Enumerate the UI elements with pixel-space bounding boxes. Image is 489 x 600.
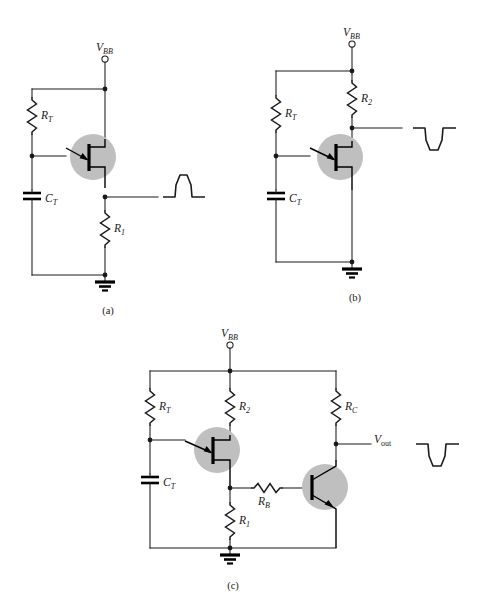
resistor-r2-b (348, 80, 357, 118)
circuit-a: VBB RT CT (23, 41, 205, 317)
supply-terminal-a[interactable] (102, 56, 108, 62)
resistor-rc-c-label: RC (344, 400, 358, 415)
ujt-halo-c (194, 427, 240, 473)
resistor-rt-b (272, 95, 281, 133)
resistor-r1-c-label: R1 (238, 514, 250, 529)
resistor-rc-c (332, 388, 341, 426)
waveform-a (163, 175, 205, 197)
resistor-rb-c (251, 484, 283, 493)
output-label-c: Vout (374, 433, 392, 448)
capacitor-ct-b-label: CT (289, 192, 302, 207)
supply-terminal-c[interactable] (227, 342, 233, 348)
resistor-r1-c (226, 502, 235, 540)
waveform-c (416, 444, 459, 466)
supply-label-b: VBB (343, 26, 360, 41)
ujt-halo-a (70, 134, 116, 180)
resistor-rt-b-label: RT (284, 107, 297, 122)
circuit-b: VBB R2 RT CT (267, 26, 456, 304)
resistor-rt-c (146, 388, 155, 426)
caption-b: (b) (349, 292, 362, 304)
resistor-rb-c-label: RB (257, 495, 270, 510)
capacitor-ct-a-label: CT (45, 192, 58, 207)
resistor-rt-a-label: RT (40, 109, 53, 124)
resistor-r2-b-label: R2 (360, 92, 372, 107)
figure-root: VBB RT CT (0, 0, 489, 600)
resistor-rt-a (28, 97, 37, 135)
supply-label-c: VBB (221, 327, 238, 342)
ujt-halo-b (317, 134, 363, 180)
resistor-r2-c-label: R2 (238, 400, 250, 415)
resistor-r1-a (101, 210, 110, 248)
waveform-b (413, 128, 456, 150)
waveform-b-trace (413, 128, 456, 150)
resistor-r1-a-label: R1 (113, 222, 125, 237)
caption-a: (a) (102, 305, 114, 317)
waveform-a-trace (163, 175, 205, 197)
circuit-schematic-svg: VBB RT CT (0, 0, 489, 600)
capacitor-ct-c-label: CT (163, 476, 176, 491)
caption-c: (c) (227, 580, 239, 592)
resistor-r2-c (226, 388, 235, 426)
resistor-rt-c-label: RT (158, 400, 171, 415)
waveform-c-trace (416, 444, 459, 466)
supply-label-a: VBB (96, 41, 113, 56)
supply-terminal-b[interactable] (349, 41, 355, 47)
circuit-c: VBB RT CT R2 (141, 327, 459, 592)
